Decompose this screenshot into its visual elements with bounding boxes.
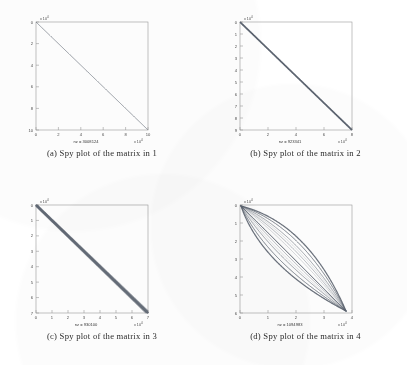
y-tick-label: 1: [235, 32, 238, 37]
y-tick-label: 0: [31, 20, 34, 25]
x-tick-label: 2: [267, 132, 270, 137]
y-tick-label: 6: [31, 295, 34, 300]
x-tick-label: 4: [80, 132, 83, 137]
x-tick-label: 6: [102, 132, 105, 137]
y-axis-exponent: x 104: [40, 198, 49, 204]
x-tick-label: 8: [351, 132, 354, 137]
y-tick-label: 4: [235, 275, 238, 280]
spy-plot-grid: 0 2 4 6 8 10 0 2 4 6 8 10 x 104 x 104 n: [0, 0, 407, 365]
nz-label: nz = 3008124: [74, 139, 100, 144]
x-tick-label: 10: [146, 132, 151, 137]
y-tick-label: 8: [31, 106, 34, 111]
y-tick-label: 2: [31, 41, 34, 46]
panel-a-figure: 0 2 4 6 8 10 0 2 4 6 8 10 x 104 x 104 n: [0, 0, 204, 148]
panel-d-caption: (d) Spy plot of the matrix in 4: [204, 331, 407, 341]
x-tick-label: 3: [83, 315, 86, 320]
y-tick-label: 7: [31, 311, 34, 316]
x-tick-label: 2: [67, 315, 70, 320]
panel-d-y-tick-labels: 0 1 2 3 4 5 6: [235, 203, 238, 316]
panel-a-plot: 0 2 4 6 8 10 0 2 4 6 8 10 x 104 x 104 n: [0, 0, 204, 148]
panel-b-plot: 0 1 2 3 4 5 6 7 8 9 0 2 4 6 8: [204, 0, 407, 148]
panel-d-x-tick-labels: 0 1 2 3 4: [239, 315, 354, 320]
y-tick-label: 0: [31, 203, 34, 208]
y-tick-label: 1: [31, 218, 34, 223]
x-tick-label: 7: [147, 315, 150, 320]
y-tick-label: 0: [235, 203, 238, 208]
x-tick-label: 1: [267, 315, 270, 320]
x-tick-label: 6: [131, 315, 134, 320]
panel-c-y-tick-labels: 0 1 2 3 4 5 6 7: [31, 203, 34, 316]
panel-a-caption: (a) Spy plot of the matrix in 1: [0, 148, 204, 158]
panel-d-figure: 0 1 2 3 4 5 6 0 1 2 3 4 x 104 x 104 nz: [204, 183, 407, 331]
panel-c-caption: (c) Spy plot of the matrix in 3: [0, 331, 204, 341]
x-axis-exponent: x 104: [338, 138, 347, 144]
y-tick-label: 4: [235, 68, 238, 73]
y-tick-label: 6: [31, 84, 34, 89]
x-tick-label: 4: [295, 132, 298, 137]
y-tick-label: 5: [31, 280, 34, 285]
x-tick-label: 0: [239, 315, 242, 320]
y-tick-label: 7: [235, 104, 238, 109]
x-tick-label: 5: [115, 315, 118, 320]
panel-c-figure: 0 1 2 3 4 5 6 7 0 1 2 3 4 5 6 7: [0, 183, 204, 331]
y-tick-label: 1: [235, 221, 238, 226]
panel-b-caption: (b) Spy plot of the matrix in 2: [204, 148, 407, 158]
x-axis-exponent: x 104: [338, 321, 347, 327]
y-tick-label: 2: [31, 233, 34, 238]
y-tick-label: 10: [28, 128, 33, 133]
panel-b-figure: 0 1 2 3 4 5 6 7 8 9 0 2 4 6 8: [204, 0, 407, 148]
y-tick-label: 6: [235, 92, 238, 97]
panel-a: 0 2 4 6 8 10 0 2 4 6 8 10 x 104 x 104 n: [0, 0, 204, 183]
y-tick-label: 8: [235, 116, 238, 121]
nz-label: nz = 1094983: [278, 322, 304, 327]
y-tick-label: 4: [31, 63, 34, 68]
panel-d: 0 1 2 3 4 5 6 0 1 2 3 4 x 104 x 104 nz: [204, 183, 407, 365]
panel-a-x-tick-labels: 0 2 4 6 8 10: [35, 132, 151, 137]
y-tick-label: 5: [235, 80, 238, 85]
y-tick-label: 3: [235, 257, 238, 262]
y-axis-exponent: x 104: [40, 15, 49, 21]
y-axis-exponent: x 104: [244, 198, 253, 204]
x-tick-label: 4: [99, 315, 102, 320]
x-tick-label: 0: [35, 132, 38, 137]
y-tick-label: 2: [235, 44, 238, 49]
x-tick-label: 2: [295, 315, 298, 320]
panel-a-y-tick-labels: 0 2 4 6 8 10: [28, 20, 33, 133]
x-tick-label: 2: [57, 132, 60, 137]
y-tick-label: 9: [235, 128, 238, 133]
x-tick-label: 0: [35, 315, 38, 320]
panel-c: 0 1 2 3 4 5 6 7 0 1 2 3 4 5 6 7: [0, 183, 204, 365]
y-tick-label: 3: [31, 249, 34, 254]
panel-b-x-tick-labels: 0 2 4 6 8: [239, 132, 354, 137]
panel-b: 0 1 2 3 4 5 6 7 8 9 0 2 4 6 8: [204, 0, 407, 183]
panel-c-plot: 0 1 2 3 4 5 6 7 0 1 2 3 4 5 6 7: [0, 183, 204, 331]
panel-c-x-tick-labels: 0 1 2 3 4 5 6 7: [35, 315, 150, 320]
x-axis-exponent: x 104: [134, 321, 143, 327]
y-tick-label: 0: [235, 20, 238, 25]
y-tick-label: 6: [235, 311, 238, 316]
panel-d-plot: 0 1 2 3 4 5 6 0 1 2 3 4 x 104 x 104 nz: [204, 183, 407, 331]
nz-label: nz = 930100: [75, 322, 98, 327]
y-axis-exponent: x 104: [244, 15, 253, 21]
y-tick-label: 3: [235, 56, 238, 61]
y-tick-label: 4: [31, 264, 34, 269]
x-tick-label: 0: [239, 132, 242, 137]
nz-label: nz = 923341: [279, 139, 302, 144]
x-tick-label: 3: [323, 315, 326, 320]
y-tick-label: 2: [235, 239, 238, 244]
x-tick-label: 6: [323, 132, 326, 137]
x-tick-label: 8: [124, 132, 127, 137]
x-axis-exponent: x 104: [134, 138, 143, 144]
panel-b-y-tick-labels: 0 1 2 3 4 5 6 7 8 9: [235, 20, 238, 133]
x-tick-label: 1: [51, 315, 54, 320]
y-tick-label: 5: [235, 293, 238, 298]
x-tick-label: 4: [351, 315, 354, 320]
